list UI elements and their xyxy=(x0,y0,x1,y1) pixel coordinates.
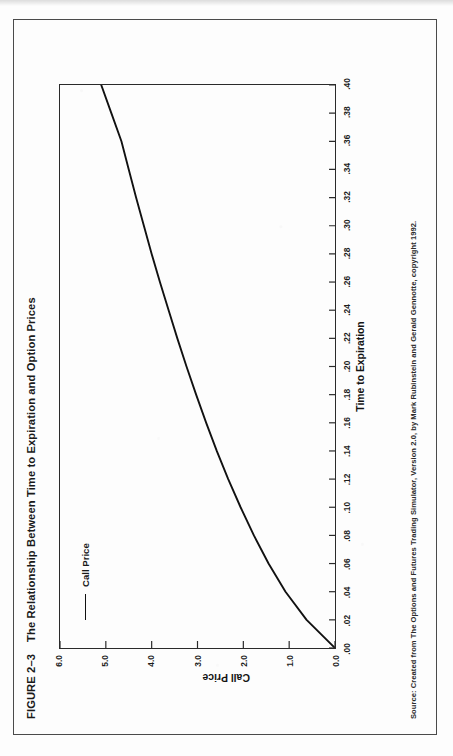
legend-label-call-price: Call Price xyxy=(80,543,91,587)
x-tick-label: .16 xyxy=(342,417,352,429)
x-tick-label: .20 xyxy=(342,361,352,373)
x-tick-label: .00 xyxy=(342,643,352,655)
x-tick-label: .28 xyxy=(342,248,352,260)
x-tick-label: .18 xyxy=(342,389,352,401)
source-note: Source: Created from The Options and Fut… xyxy=(409,221,418,719)
y-tick-label: 6.0 xyxy=(54,655,64,667)
x-tick-label: .08 xyxy=(342,530,352,542)
y-tick-label: 3.0 xyxy=(193,655,203,667)
x-tick-label: .22 xyxy=(342,332,352,344)
x-tick-label: .12 xyxy=(342,474,352,486)
x-tick-label: .32 xyxy=(342,191,352,203)
plot-canvas xyxy=(60,85,335,648)
x-axis-title: Time to Expiration xyxy=(355,84,366,649)
chart-legend: Call Price xyxy=(80,543,91,620)
rotated-figure-stage: FIGURE 2–3 The Relationship Between Time… xyxy=(13,19,437,735)
scan-edge-artifact xyxy=(0,0,453,6)
x-tick-label: .34 xyxy=(342,163,352,175)
y-axis-title: Call Price xyxy=(203,672,250,683)
plot-area: Call Price xyxy=(59,84,336,649)
x-tick-label: .06 xyxy=(342,558,352,570)
x-tick-label: .40 xyxy=(342,78,352,90)
figure-number: FIGURE 2–3 xyxy=(25,654,37,719)
chart: Call Price .00.02.04.06.08.10.12.14.16.1… xyxy=(59,76,359,693)
figure-caption: FIGURE 2–3 The Relationship Between Time… xyxy=(25,297,37,719)
y-tick-label: 2.0 xyxy=(239,655,249,667)
x-tick-label: .38 xyxy=(342,106,352,118)
scanned-page: FIGURE 2–3 The Relationship Between Time… xyxy=(0,0,453,756)
legend-line-swatch xyxy=(85,594,86,620)
figure-content: FIGURE 2–3 The Relationship Between Time… xyxy=(13,19,437,735)
x-tick-label: .36 xyxy=(342,135,352,147)
x-tick-label: .30 xyxy=(342,219,352,231)
y-tick-label: 1.0 xyxy=(285,655,295,667)
figure-title: The Relationship Between Time to Expirat… xyxy=(25,297,37,642)
call-price-curve xyxy=(101,85,335,648)
y-tick-label: 5.0 xyxy=(100,655,110,667)
x-tick-label: .02 xyxy=(342,615,352,627)
x-tick-label: .04 xyxy=(342,587,352,599)
x-tick-label: .26 xyxy=(342,276,352,288)
x-tick-label: .10 xyxy=(342,502,352,514)
x-tick-label: .24 xyxy=(342,304,352,316)
y-tick-label: 4.0 xyxy=(146,655,156,667)
y-tick-label: 0.0 xyxy=(331,655,341,667)
x-tick-label: .14 xyxy=(342,445,352,457)
